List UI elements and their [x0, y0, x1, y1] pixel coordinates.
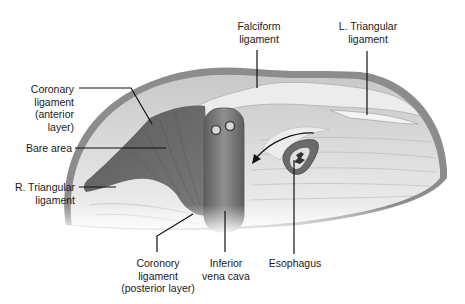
label-falciform-ligament: Falciform ligament — [232, 20, 286, 45]
label-bare-area: Bare area — [10, 142, 72, 155]
hepatic-vein-opening-1 — [212, 126, 221, 135]
label-inferior-vena-cava: Inferior vena cava — [198, 257, 254, 282]
hepatic-vein-opening-2 — [226, 122, 235, 131]
label-coronary-ligament-anterior: Coronary ligament (anterior layer) — [10, 83, 74, 133]
label-esophagus: Esophagus — [262, 257, 328, 270]
label-r-triangular-ligament: R. Triangular ligament — [4, 181, 75, 206]
label-coronary-ligament-posterior: Coronory ligament (posterior layer) — [118, 257, 198, 295]
label-l-triangular-ligament: L. Triangular ligament — [332, 20, 404, 45]
